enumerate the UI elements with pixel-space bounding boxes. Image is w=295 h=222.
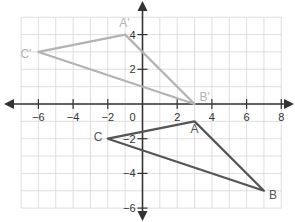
arrow-up-icon (138, 1, 148, 11)
origin-label: 0 (129, 111, 135, 123)
y-tick-label: −6 (123, 202, 136, 214)
x-tick-label: −2 (102, 111, 115, 123)
y-tick-label: −4 (123, 167, 136, 179)
triangles: A'B'C'ABC (20, 16, 277, 202)
y-tick-label: 2 (129, 63, 135, 75)
x-tick-label: −6 (32, 111, 45, 123)
x-tick-label: 8 (278, 111, 284, 123)
vertex-label: A (191, 122, 199, 136)
x-tick-label: −4 (67, 111, 80, 123)
x-tick-label: 6 (244, 111, 250, 123)
x-tick-label: 4 (209, 111, 215, 123)
x-tick-label: 2 (174, 111, 180, 123)
vertex-label: B (269, 188, 277, 202)
arrow-down-icon (138, 211, 148, 221)
vertex-label: C (94, 130, 103, 144)
arrow-right-icon (284, 99, 294, 109)
coordinate-plane: −6−4−2246842−2−4−60 A'B'C'ABC (0, 0, 295, 222)
vertex-label: A' (119, 16, 129, 30)
vertex-label: C' (20, 47, 31, 61)
arrow-left-icon (4, 99, 14, 109)
vertex-label: B' (200, 90, 210, 104)
grid (21, 17, 281, 208)
axes (4, 1, 294, 221)
